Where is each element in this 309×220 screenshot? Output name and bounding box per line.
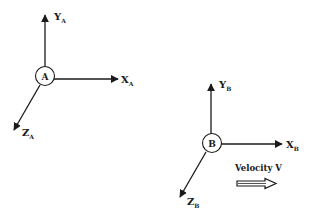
- frame-b-z-axis: [180, 152, 206, 197]
- velocity-indicator: Velocity V: [234, 163, 282, 189]
- frame-b: B YB XB ZB: [180, 79, 299, 209]
- frame-a-node-label: A: [41, 72, 50, 82]
- frame-a-z-label: ZA: [22, 127, 34, 140]
- velocity-label: Velocity V: [234, 163, 282, 173]
- frame-a-z-axis: [14, 85, 40, 130]
- diagram-canvas: A YA XA ZA B YB XB ZB Velocity V: [0, 0, 309, 220]
- frame-a-y-label: YA: [53, 11, 66, 24]
- frame-b-y-label: YB: [218, 79, 231, 92]
- frame-b-z-label: ZB: [187, 196, 199, 209]
- frame-a: A YA XA ZA: [14, 11, 134, 140]
- frame-a-x-label: XA: [121, 74, 134, 87]
- frame-b-node-label: B: [208, 139, 216, 149]
- frame-b-x-label: XB: [286, 139, 299, 152]
